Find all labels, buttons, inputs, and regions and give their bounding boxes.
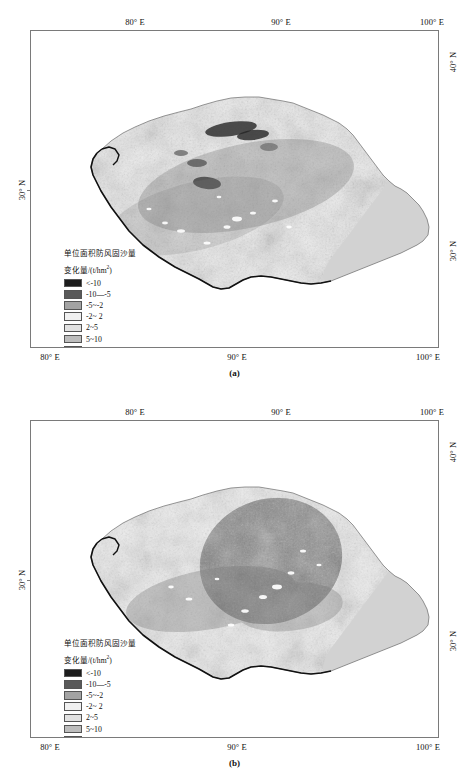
legend-swatch [64,335,82,344]
legend-title-line2: 变化量/(t/hm2) [64,262,168,276]
legend-label: -2~ 2 [86,312,103,321]
panel-b: 80° E 90° E 100° E 80° E 90° E 100° E 30… [0,390,469,780]
legend-title-unit-post: ) [109,655,112,664]
legend-title-unit-pre: 变化量/(t/hm [64,265,107,274]
axis-right-label-30n: 30° N [448,631,458,652]
legend-row: 2~5 [64,322,168,333]
legend-title-line2: 变化量/(t/hm2) [64,652,168,666]
legend-label: <-10 [86,279,101,288]
legend-row: <-10 [64,668,168,679]
legend-swatch [64,725,82,734]
axis-bottom-label-100e: 100° E [416,742,440,752]
legend-label: >10 [86,346,98,348]
axis-top-label-80e: 80° E [125,407,145,417]
legend-swatch [64,680,82,689]
legend-swatch [64,691,82,700]
legend-row: -2~ 2 [64,701,168,712]
legend-label: -10—-5 [86,680,111,689]
panel-a: 80° E 90° E 100° E 80° E 90° E 100° E 30… [0,0,469,390]
legend-row: <-10 [64,278,168,289]
axis-right-label-30n: 30° N [448,241,458,262]
legend-swatch [64,312,82,321]
legend-label: >10 [86,736,98,738]
panel-caption-a: (a) [0,368,469,378]
legend-row: -5~-2 [64,300,168,311]
axis-bottom-label-90e: 90° E [227,352,247,362]
legend-swatch [64,279,82,288]
legend-swatch [64,324,82,333]
legend-b: 单位面积防风固沙量 变化量/(t/hm2) <-10 -10—-5 -5~-2 … [64,639,168,738]
legend-swatch [64,736,82,738]
axis-top-label-90e: 90° E [271,407,291,417]
legend-label: -5~-2 [86,691,103,700]
legend-row: >10 [64,735,168,738]
axis-top-label-100e: 100° E [420,407,444,417]
legend-label: 2~5 [86,713,98,722]
axis-right-label-40n: 40° N [448,52,458,73]
legend-label: 5~10 [86,725,102,734]
legend-label: -10—-5 [86,290,111,299]
legend-swatch [64,669,82,678]
legend-swatch [64,702,82,711]
legend-title-line1: 单位面积防风固沙量 [64,639,168,650]
legend-swatch [64,714,82,723]
figure-two-panel-maps: 80° E 90° E 100° E 80° E 90° E 100° E 30… [0,0,469,781]
axis-top-label-80e: 80° E [125,17,145,27]
legend-title-unit-post: ) [109,265,112,274]
map-frame-a: 单位面积防风固沙量 变化量/(t/hm2) <-10 -10—-5 -5~-2 … [30,30,439,348]
axis-top-label-100e: 100° E [420,17,444,27]
axis-bottom-label-90e: 90° E [227,742,247,752]
axis-right-label-40n: 40° N [448,442,458,463]
legend-row: -10—-5 [64,679,168,690]
legend-row: -10—-5 [64,289,168,300]
axis-bottom-label-100e: 100° E [416,352,440,362]
map-frame-b: 单位面积防风固沙量 变化量/(t/hm2) <-10 -10—-5 -5~-2 … [30,420,439,738]
legend-label: -5~-2 [86,301,103,310]
legend-label: <-10 [86,669,101,678]
axis-bottom-label-80e: 80° E [40,742,60,752]
axis-bottom-label-80e: 80° E [40,352,60,362]
legend-title-line1: 单位面积防风固沙量 [64,249,168,260]
legend-row: 5~10 [64,723,168,734]
legend-title-unit-pre: 变化量/(t/hm [64,655,107,664]
legend-swatch [64,301,82,310]
axis-left-label-30n: 30° N [17,180,27,201]
axis-left-label-30n: 30° N [17,570,27,591]
legend-row: 5~10 [64,333,168,344]
legend-a: 单位面积防风固沙量 变化量/(t/hm2) <-10 -10—-5 -5~-2 … [64,249,168,348]
legend-swatch [64,346,82,348]
legend-row: -5~-2 [64,690,168,701]
legend-label: 2~5 [86,323,98,332]
legend-row: -2~ 2 [64,311,168,322]
legend-swatch [64,290,82,299]
axis-top-label-90e: 90° E [271,17,291,27]
legend-label: 5~10 [86,335,102,344]
panel-caption-b: (b) [0,758,469,768]
legend-label: -2~ 2 [86,702,103,711]
legend-row: >10 [64,345,168,348]
legend-row: 2~5 [64,712,168,723]
